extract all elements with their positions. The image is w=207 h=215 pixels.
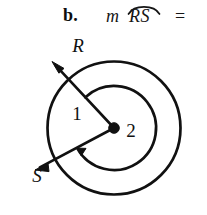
point-label-S: S bbox=[32, 165, 42, 186]
worksheet-problem-page: b. m RS = bbox=[0, 0, 207, 215]
arc-notation-group: RS bbox=[127, 2, 169, 32]
arc-endpoints-label: RS bbox=[129, 6, 150, 27]
center-vertex-dot bbox=[109, 123, 120, 134]
equals-sign: = bbox=[175, 6, 185, 27]
ray-to-R bbox=[55, 65, 114, 128]
geometry-figure: R S 1 2 bbox=[0, 30, 207, 215]
angle-label-1: 1 bbox=[72, 103, 82, 124]
angle-label-2: 2 bbox=[126, 120, 136, 141]
point-label-R: R bbox=[71, 35, 84, 56]
measure-operator-symbol: m bbox=[106, 6, 119, 27]
problem-letter-label: b. bbox=[63, 5, 78, 26]
